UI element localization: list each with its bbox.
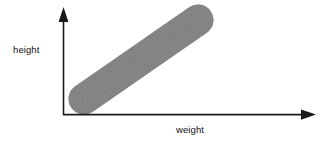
y-axis-label: height <box>13 44 39 55</box>
plot-canvas <box>0 0 330 145</box>
data-cloud <box>84 20 198 99</box>
x-axis <box>63 109 316 119</box>
y-axis <box>59 7 69 115</box>
x-axis-label: weight <box>168 124 212 135</box>
x-axis-arrowhead <box>301 109 316 119</box>
scatter-plot-figure: height weight <box>0 0 330 145</box>
y-axis-arrowhead <box>59 7 69 22</box>
